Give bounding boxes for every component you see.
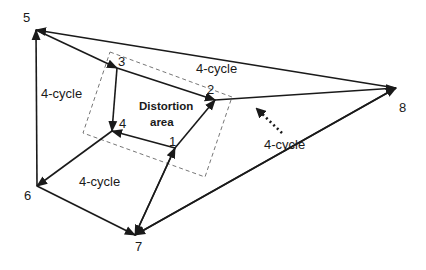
vertex-label-4: 4 bbox=[119, 116, 126, 131]
dotted-pointer-arrow-icon bbox=[257, 109, 282, 133]
edge-1-to-7 bbox=[135, 148, 175, 235]
edge-3-to-4 bbox=[112, 68, 117, 131]
distortion-area-label-line1: Distortion bbox=[139, 100, 193, 112]
edge-5-to-3 bbox=[36, 30, 117, 68]
cycle-label-2: 4-cycle bbox=[79, 174, 120, 189]
cycle-label-0: 4-cycle bbox=[41, 86, 82, 101]
edge-6-to-5 bbox=[36, 30, 37, 186]
vertex-label-5: 5 bbox=[23, 10, 30, 25]
edge-1-to-4 bbox=[112, 131, 175, 148]
vertex-labels: 53284167 bbox=[23, 10, 406, 254]
edge-8-to-5 bbox=[36, 30, 396, 88]
vertex-label-1: 1 bbox=[169, 134, 176, 149]
cycle-label-1: 4-cycle bbox=[196, 61, 237, 76]
vertex-label-7: 7 bbox=[135, 239, 142, 254]
four-cycle-distortion-diagram: 53284167 4-cycle4-cycle4-cycle4-cycle Di… bbox=[0, 0, 426, 270]
vertex-label-8: 8 bbox=[399, 100, 406, 115]
vertex-label-3: 3 bbox=[118, 54, 125, 69]
vertex-label-2: 2 bbox=[207, 82, 214, 97]
edge-2-to-8 bbox=[215, 88, 396, 100]
vertex-label-6: 6 bbox=[24, 188, 31, 203]
cycle-label-3: 4-cycle bbox=[264, 137, 305, 152]
edge-6-to-7 bbox=[37, 186, 135, 235]
distortion-area-label-line2: area bbox=[150, 116, 174, 128]
